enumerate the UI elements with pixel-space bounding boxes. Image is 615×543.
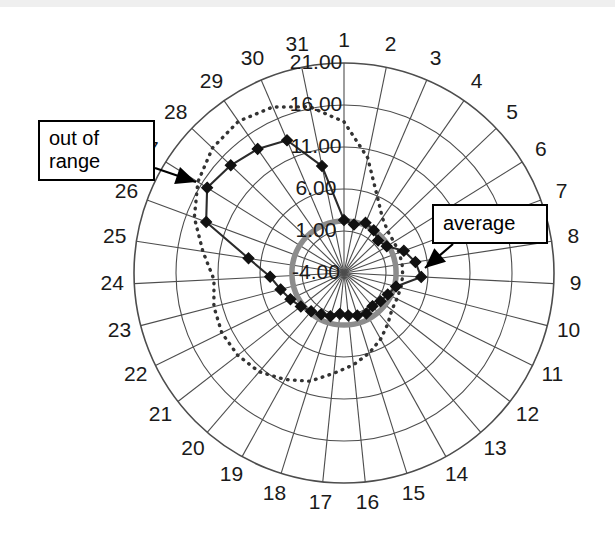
radial-tick-6.00: 6.00: [296, 176, 337, 199]
category-label-28: 28: [164, 100, 187, 123]
category-label-3: 3: [430, 46, 442, 69]
category-label-18: 18: [263, 481, 286, 504]
category-label-29: 29: [200, 69, 223, 92]
category-label-20: 20: [181, 436, 204, 459]
spoke-layer: [134, 63, 553, 482]
category-label-9: 9: [570, 271, 582, 294]
category-label-19: 19: [220, 462, 243, 485]
category-label-17: 17: [309, 490, 332, 513]
category-label-1: 1: [338, 28, 350, 51]
chart-canvas: 1234567891011121314151617181920212223242…: [0, 0, 615, 543]
category-label-14: 14: [445, 462, 469, 485]
category-label-26: 26: [115, 179, 138, 202]
category-label-12: 12: [516, 402, 539, 425]
category-label-25: 25: [103, 224, 126, 247]
category-label-8: 8: [567, 224, 579, 247]
category-label-24: 24: [101, 271, 125, 294]
category-label-21: 21: [149, 402, 172, 425]
callout-average: average: [432, 204, 548, 244]
category-label-13: 13: [483, 436, 506, 459]
category-label-6: 6: [535, 137, 547, 160]
radial-tick-1.00: 1.00: [296, 218, 337, 241]
category-label-2: 2: [385, 32, 397, 55]
category-label-11: 11: [541, 362, 563, 385]
category-label-23: 23: [108, 318, 131, 341]
callout-out-of-range: out of range: [38, 120, 155, 181]
category-label-22: 22: [124, 362, 147, 385]
category-label-4: 4: [471, 69, 483, 92]
radial-tick-16.00: 16.00: [290, 92, 343, 115]
radial-tick-11.00: 11.00: [291, 134, 342, 157]
polar-chart: 1234567891011121314151617181920212223242…: [0, 0, 615, 543]
category-label-5: 5: [506, 100, 518, 123]
category-label-16: 16: [356, 490, 379, 513]
category-label-7: 7: [556, 179, 568, 202]
radial-tick-21.00: 21.00: [290, 50, 343, 73]
category-label-30: 30: [241, 46, 264, 69]
category-label-15: 15: [402, 481, 425, 504]
radial-tick--4.00: -4.00: [292, 260, 340, 283]
category-label-10: 10: [557, 318, 580, 341]
